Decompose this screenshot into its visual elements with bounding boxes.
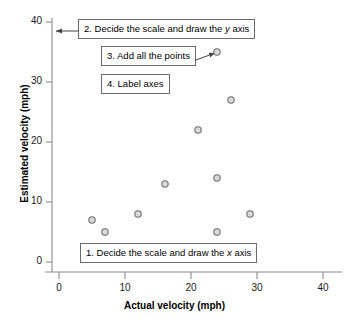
callout-box-step-4: 4. Label axes xyxy=(101,74,170,94)
y-axis-ticks xyxy=(46,22,52,262)
y-tick-label-0: 0 xyxy=(18,255,42,266)
callout-box-step-3: 3. Add all the points xyxy=(101,46,196,66)
data-point xyxy=(135,211,141,217)
callout-4-text-prefix: 4. Label axes xyxy=(107,78,164,89)
data-point xyxy=(228,97,234,103)
x-axis-ticks xyxy=(59,272,323,279)
callout-2-text-prefix: 2. Decide the scale and draw the xyxy=(84,23,225,34)
data-point xyxy=(102,229,108,235)
data-point xyxy=(214,229,220,235)
callout-3-arrow xyxy=(196,53,215,60)
callout-box-step-1: 1. Decide the scale and draw the x axis xyxy=(80,243,257,263)
callout-1-text-suffix: axis xyxy=(232,247,252,258)
y-axis-title: Estimated velocity (mph) xyxy=(19,54,30,234)
data-point xyxy=(214,49,220,55)
callout-3-text-prefix: 3. Add all the points xyxy=(107,50,190,61)
callout-1-text-prefix: 1. Decide the scale and draw the xyxy=(86,247,227,258)
y-tick-label-40: 40 xyxy=(18,15,42,26)
data-point xyxy=(89,217,95,223)
x-tick-label-40: 40 xyxy=(311,282,335,293)
callout-box-step-2: 2. Decide the scale and draw the y axis xyxy=(78,19,255,39)
x-tick-label-0: 0 xyxy=(47,282,71,293)
x-tick-label-20: 20 xyxy=(179,282,203,293)
x-tick-label-30: 30 xyxy=(245,282,269,293)
callout-2-text-suffix: axis xyxy=(230,23,250,34)
data-point xyxy=(195,127,201,133)
x-axis-title: Actual velocity (mph) xyxy=(0,300,349,311)
data-point xyxy=(214,175,220,181)
data-point xyxy=(162,181,168,187)
x-tick-label-10: 10 xyxy=(113,282,137,293)
scatter-plot-figure: 40 30 20 10 0 0 10 20 30 40 Actual veloc… xyxy=(0,0,349,318)
data-point xyxy=(247,211,253,217)
